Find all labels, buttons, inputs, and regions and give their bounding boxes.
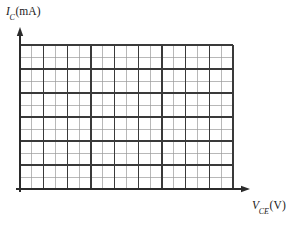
- y-axis-label: IC(mA): [6, 6, 41, 20]
- y-axis-arrowhead-icon: [17, 27, 23, 36]
- y-axis-label-subscript: C: [9, 13, 14, 22]
- x-axis-label-subscript: CE: [259, 207, 269, 216]
- x-axis-label-unit: (V): [270, 199, 286, 211]
- axes-and-grid: [0, 0, 305, 226]
- y-axis-label-unit: (mA): [15, 5, 40, 17]
- graph-figure: IC(mA) VCE(V): [0, 0, 305, 226]
- x-axis-arrowhead-icon: [241, 186, 250, 192]
- x-axis-label: VCE(V): [252, 200, 286, 214]
